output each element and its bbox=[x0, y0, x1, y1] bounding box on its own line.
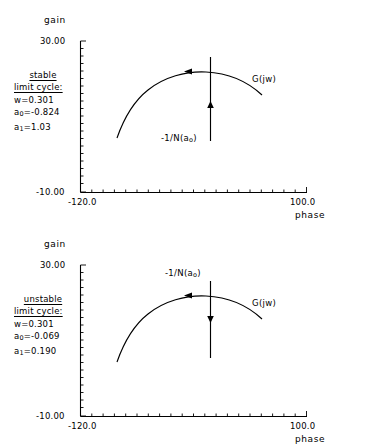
y-axis-min-tick-label: -10.00 bbox=[36, 411, 65, 421]
note-stability-label: stable bbox=[14, 69, 72, 81]
note-omega-value: w=0.301 bbox=[14, 94, 72, 106]
note-limit-cycle-label: limit cycle: bbox=[14, 305, 72, 317]
note-omega-value: w=0.301 bbox=[14, 318, 72, 330]
y-axis-ticks bbox=[81, 41, 87, 192]
figure-container: gain 30.00 -10.00 -120.0 100.0 phase sta… bbox=[0, 0, 370, 448]
n-locus-direction-arrow-icon bbox=[207, 101, 214, 108]
x-axis-max-tick-label: 100.0 bbox=[290, 421, 315, 431]
y-axis-max-tick-label: 30.00 bbox=[40, 260, 65, 270]
chart-panel-stable: gain 30.00 -10.00 -120.0 100.0 phase sta… bbox=[0, 0, 370, 224]
n-locus-label-post: ) bbox=[197, 268, 201, 278]
note-a1-number: =0.190 bbox=[24, 346, 57, 356]
y-axis-min-tick-label: -10.00 bbox=[36, 187, 65, 197]
note-a1-value: a1=0.190 bbox=[14, 345, 72, 360]
limit-cycle-note-stable: stable limit cycle: w=0.301 a0=-0.824 a1… bbox=[14, 69, 72, 136]
y-axis-ticks bbox=[81, 265, 87, 416]
note-a0-value: a0=-0.824 bbox=[14, 106, 72, 121]
n-locus-label-post: ) bbox=[193, 133, 197, 143]
n-locus-label: -1/N(ao) bbox=[161, 133, 197, 144]
note-limit-cycle-label: limit cycle: bbox=[14, 81, 72, 93]
x-axis-ticks bbox=[81, 187, 307, 193]
limit-cycle-note-unstable: unstable limit cycle: w=0.301 a0=-0.069 … bbox=[14, 293, 72, 360]
note-a1-value: a1=1.03 bbox=[14, 121, 72, 136]
note-a0-number: =-0.069 bbox=[24, 331, 60, 341]
x-axis-min-tick-label: -120.0 bbox=[68, 421, 97, 431]
note-a1-number: =1.03 bbox=[24, 122, 51, 132]
g-jw-curve bbox=[117, 72, 262, 138]
y-axis-label: gain bbox=[44, 15, 66, 25]
x-axis-min-tick-label: -120.0 bbox=[68, 197, 97, 207]
n-locus-label: -1/N(ao) bbox=[165, 268, 201, 279]
x-axis-label: phase bbox=[295, 434, 325, 444]
n-locus-label-pre: -1/N(a bbox=[161, 133, 189, 143]
g-jw-curve bbox=[117, 296, 262, 362]
note-a0-number: =-0.824 bbox=[24, 107, 60, 117]
g-jw-curve-label: G(jw) bbox=[252, 298, 276, 308]
y-axis-max-tick-label: 30.00 bbox=[40, 36, 65, 46]
y-axis-label: gain bbox=[44, 239, 66, 249]
note-stability-label: unstable bbox=[14, 293, 72, 305]
x-axis-max-tick-label: 100.0 bbox=[290, 197, 315, 207]
x-axis-label: phase bbox=[295, 210, 325, 220]
n-locus-label-pre: -1/N(a bbox=[165, 268, 193, 278]
g-jw-curve-label: G(jw) bbox=[252, 74, 276, 84]
chart-panel-unstable: gain 30.00 -10.00 -120.0 100.0 phase uns… bbox=[0, 224, 370, 448]
x-axis-ticks bbox=[81, 411, 307, 417]
note-a0-value: a0=-0.069 bbox=[14, 330, 72, 345]
n-locus-direction-arrow-icon bbox=[207, 316, 214, 323]
